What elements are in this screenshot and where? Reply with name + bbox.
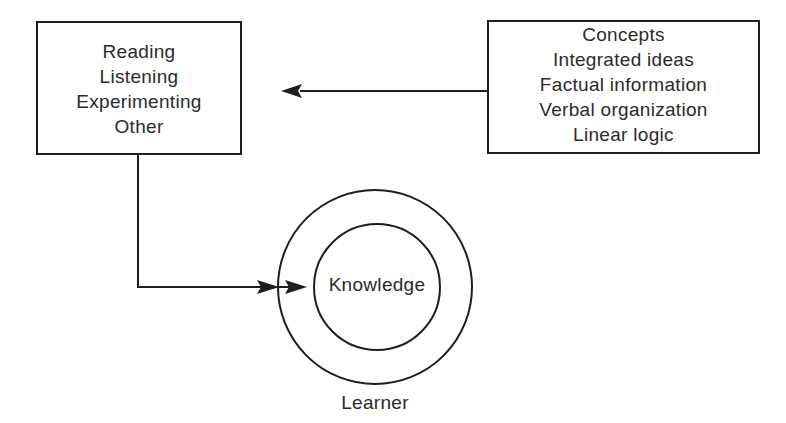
content-item: Verbal organization — [489, 97, 758, 122]
content-item: Factual information — [489, 72, 758, 97]
learner-label: Learner — [320, 392, 430, 414]
content-list: Concepts Integrated ideas Factual inform… — [489, 22, 758, 147]
knowledge-label: Knowledge — [317, 274, 437, 296]
input-method-item: Reading — [38, 39, 240, 64]
content-box: Concepts Integrated ideas Factual inform… — [487, 20, 760, 154]
arrow-content-to-inputs — [281, 84, 487, 98]
diagram-canvas: Reading Listening Experimenting Other Co… — [0, 0, 786, 423]
content-item: Concepts — [489, 22, 758, 47]
arrow-inputs-to-learner — [137, 155, 307, 294]
input-methods-list: Reading Listening Experimenting Other — [38, 39, 240, 139]
content-item: Integrated ideas — [489, 47, 758, 72]
input-method-item: Listening — [38, 64, 240, 89]
input-methods-box: Reading Listening Experimenting Other — [36, 21, 242, 155]
content-item: Linear logic — [489, 122, 758, 147]
arrowhead-left-icon — [281, 84, 302, 98]
input-method-item: Other — [38, 114, 240, 139]
input-method-item: Experimenting — [38, 89, 240, 114]
